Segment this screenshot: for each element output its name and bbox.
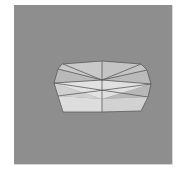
3d-viewport[interactable] bbox=[14, 5, 173, 165]
mesh-render bbox=[14, 5, 185, 175]
mesh-face-bottom-right bbox=[102, 97, 148, 112]
